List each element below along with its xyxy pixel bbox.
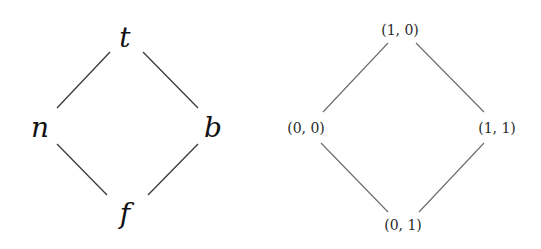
node-left-label: (0, 0)	[287, 120, 325, 136]
node-top-label: (1, 0)	[381, 22, 419, 38]
pair-lattice: (1, 0) (0, 0) (1, 1) (0, 1)	[287, 22, 516, 233]
node-right-label: (1, 1)	[478, 120, 516, 136]
node-left-label: n	[31, 111, 49, 144]
edge-b-f	[148, 144, 198, 195]
four-valued-lattice: t n b f	[31, 21, 222, 230]
edge-n-f	[57, 144, 107, 195]
node-right-label: b	[204, 111, 222, 144]
edge-10-00	[323, 43, 388, 112]
edge-11-01	[419, 143, 484, 212]
lattice-diagrams: t n b f (1, 0) (0, 0) (1, 1) (0, 1)	[0, 0, 541, 249]
node-top-label: t	[119, 21, 131, 54]
node-bottom-label: (0, 1)	[384, 217, 422, 233]
node-bottom-label: f	[118, 197, 135, 230]
edge-t-n	[57, 52, 110, 108]
edge-t-b	[143, 52, 198, 108]
edge-00-01	[321, 143, 388, 212]
edge-10-11	[416, 43, 484, 112]
